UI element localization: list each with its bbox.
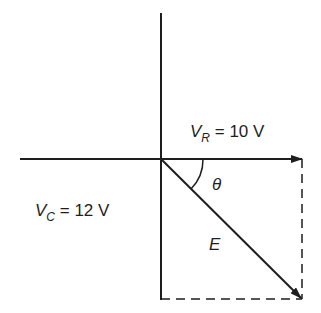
- theta-label: θ: [212, 176, 221, 193]
- e-vector-arrow: [161, 159, 301, 298]
- vc-symbol: V: [35, 201, 46, 220]
- vr-subscript: R: [201, 131, 210, 145]
- vr-symbol: V: [190, 122, 201, 141]
- vr-label: VR = 10 V: [190, 123, 264, 140]
- e-label: E: [209, 236, 220, 253]
- vc-value: = 12 V: [60, 201, 110, 220]
- vr-value: = 10 V: [215, 122, 265, 141]
- vc-subscript: C: [46, 210, 55, 224]
- phasor-diagram: [0, 0, 321, 313]
- theta-angle-arc: [191, 159, 203, 189]
- vc-label: VC = 12 V: [35, 202, 109, 219]
